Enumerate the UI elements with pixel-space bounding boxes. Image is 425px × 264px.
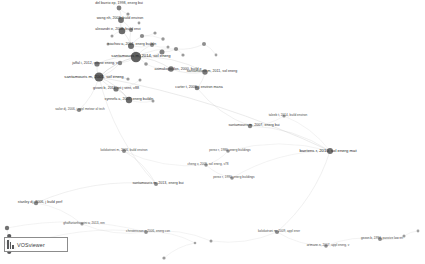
network-node[interactable] <box>153 31 156 34</box>
network-edge <box>129 99 153 101</box>
network-node[interactable] <box>160 50 165 55</box>
network-edge <box>36 183 156 203</box>
network-edge <box>152 45 168 47</box>
network-node[interactable] <box>126 77 129 80</box>
network-edge <box>326 238 380 246</box>
network-node[interactable] <box>403 235 406 238</box>
network-edge <box>136 57 171 69</box>
network-edge <box>176 44 204 49</box>
vosviewer-logo-label: VOSviewer <box>17 242 45 248</box>
network-edge <box>250 116 284 126</box>
network-node[interactable] <box>126 12 129 15</box>
network-edge <box>228 144 330 151</box>
network-node[interactable] <box>152 100 155 103</box>
network-edge <box>277 151 330 232</box>
network-node[interactable] <box>144 230 148 234</box>
network-edge <box>7 222 146 232</box>
network-node[interactable] <box>327 148 333 154</box>
network-node[interactable] <box>154 182 158 186</box>
network-edge <box>142 36 163 39</box>
network-node[interactable] <box>117 6 122 11</box>
network-node[interactable] <box>181 53 184 56</box>
network-edge <box>204 44 216 55</box>
network-node[interactable] <box>131 52 141 62</box>
network-node[interactable] <box>138 22 141 25</box>
network-edge <box>277 232 326 246</box>
network-node[interactable] <box>282 114 285 117</box>
network-node[interactable] <box>230 176 234 180</box>
network-edge <box>124 151 156 184</box>
network-node[interactable] <box>174 47 178 51</box>
network-node[interactable] <box>129 28 133 32</box>
network-edge <box>124 151 206 166</box>
network-edge <box>129 100 153 102</box>
network-edge <box>380 236 404 240</box>
network-node[interactable] <box>5 226 9 230</box>
network-node[interactable] <box>139 79 142 82</box>
network-node[interactable] <box>167 46 170 49</box>
network-edge <box>136 49 176 57</box>
network-node[interactable] <box>119 28 126 35</box>
network-edge <box>99 77 156 184</box>
network-edge <box>250 126 330 151</box>
network-node[interactable] <box>34 201 38 205</box>
network-node[interactable] <box>202 42 206 46</box>
network-node[interactable] <box>77 108 81 112</box>
vosviewer-logo[interactable]: VOSviewer <box>4 237 68 252</box>
network-node[interactable] <box>144 62 148 66</box>
network-visualization-canvas[interactable] <box>0 0 425 264</box>
network-node[interactable] <box>226 149 230 153</box>
network-edge <box>232 151 330 178</box>
network-node[interactable] <box>118 61 122 65</box>
network-edge <box>404 231 418 236</box>
network-edge <box>97 62 120 64</box>
network-node[interactable] <box>118 17 124 23</box>
network-node[interactable] <box>195 86 200 91</box>
network-edge <box>36 203 82 224</box>
network-node[interactable] <box>122 149 126 153</box>
network-edge <box>99 77 330 151</box>
network-node[interactable] <box>417 230 420 233</box>
network-node[interactable] <box>80 222 83 225</box>
network-edge <box>206 165 232 178</box>
node-layer[interactable] <box>5 6 420 260</box>
network-node[interactable] <box>215 54 218 57</box>
network-node[interactable] <box>111 35 114 38</box>
edge-layer <box>7 8 418 258</box>
network-node[interactable] <box>107 43 110 46</box>
vosviewer-mark-icon <box>7 240 15 249</box>
network-node[interactable] <box>94 61 99 66</box>
network-node[interactable] <box>275 230 279 234</box>
network-node[interactable] <box>126 97 132 103</box>
vosviewer-map[interactable]: del barrio ep, 1998, energ buiwong nh, 2… <box>0 0 425 264</box>
network-node[interactable] <box>162 256 165 259</box>
network-node[interactable] <box>161 37 164 40</box>
network-node[interactable] <box>378 237 382 241</box>
network-edge <box>211 232 277 242</box>
network-edge <box>131 45 152 47</box>
network-node[interactable] <box>194 242 197 245</box>
network-node[interactable] <box>248 124 252 128</box>
network-node[interactable] <box>202 69 207 74</box>
network-node[interactable] <box>210 240 213 243</box>
network-node[interactable] <box>113 86 118 91</box>
network-node[interactable] <box>128 43 134 49</box>
network-node[interactable] <box>204 163 207 166</box>
network-edge <box>171 69 205 73</box>
network-edge <box>197 88 250 126</box>
network-node[interactable] <box>94 72 103 81</box>
network-node[interactable] <box>140 34 144 38</box>
network-node[interactable] <box>324 244 328 248</box>
network-edge <box>79 77 99 110</box>
network-edge <box>164 243 195 258</box>
network-node[interactable] <box>168 66 174 72</box>
network-node[interactable] <box>150 43 154 47</box>
network-edge <box>206 151 228 165</box>
network-edge <box>99 57 136 77</box>
network-edge <box>108 43 131 46</box>
